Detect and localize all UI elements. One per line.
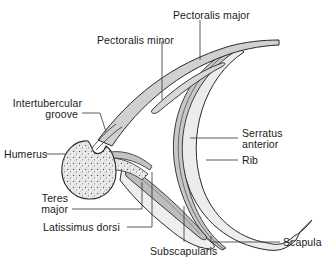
label-humerus: Humerus — [4, 149, 47, 160]
label-rib: Rib — [242, 155, 258, 166]
label-intertubercular-groove-line2: groove — [12, 109, 78, 120]
humerus — [62, 141, 116, 199]
label-scapula: Scapula — [283, 237, 322, 248]
axilla-diagram: Pectoralis major Pectoralis minor Intert… — [0, 0, 322, 269]
label-subscapularis: Subscapularis — [150, 246, 217, 257]
label-serratus-anterior-line2: anterior — [242, 139, 278, 150]
label-pectoralis-major: Pectoralis major — [173, 10, 250, 21]
label-latissimus-dorsi: Latissimus dorsi — [43, 222, 120, 233]
label-teres-major-line2: major — [30, 204, 68, 215]
label-pectoralis-minor: Pectoralis minor — [97, 35, 174, 46]
